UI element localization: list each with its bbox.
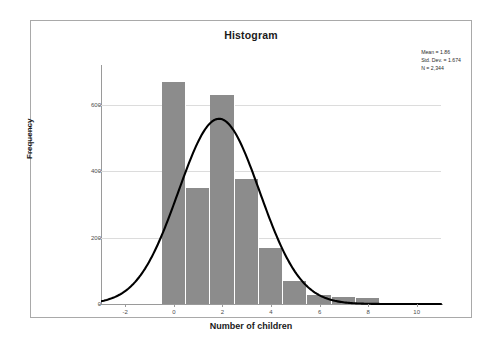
- x-axis-tick-mark: [368, 304, 369, 307]
- x-axis-tick-mark: [174, 304, 175, 307]
- x-axis-tick-mark: [417, 304, 418, 307]
- x-axis-tick-mark: [222, 304, 223, 307]
- x-axis-tick-label: 10: [413, 309, 420, 315]
- histogram-bar: [307, 295, 331, 304]
- histogram-bar: [186, 188, 210, 304]
- x-axis-tick-mark: [125, 304, 126, 307]
- histogram-bar: [235, 179, 259, 304]
- chart-frame: Histogram Mean = 1.86 Std. Dev. = 1.674 …: [30, 20, 472, 318]
- histogram-screenshot: Histogram Mean = 1.86 Std. Dev. = 1.674 …: [0, 0, 498, 340]
- x-axis-tick-label: 6: [318, 309, 321, 315]
- gridline: [101, 238, 441, 239]
- plot-area: [101, 65, 441, 304]
- y-axis-tick-mark: [98, 304, 101, 305]
- x-axis-line: [101, 304, 443, 305]
- y-axis-title: Frequency: [25, 119, 34, 159]
- histogram-bar: [162, 82, 186, 304]
- x-axis-tick-label: 2: [221, 309, 224, 315]
- x-axis-tick-label: 0: [172, 309, 175, 315]
- histogram-bar: [259, 248, 283, 304]
- histogram-bar: [332, 297, 356, 304]
- stat-mean: Mean = 1.86: [421, 48, 461, 56]
- x-axis-tick-mark: [271, 304, 272, 307]
- x-axis-tick-label: 8: [366, 309, 369, 315]
- histogram-bar: [283, 281, 307, 304]
- x-axis-tick-mark: [320, 304, 321, 307]
- gridline: [101, 171, 441, 172]
- y-axis-tick-group: 0200400600: [71, 21, 101, 340]
- histogram-bar: [210, 95, 234, 304]
- x-axis-tick-label: 4: [269, 309, 272, 315]
- x-axis-tick-label: -2: [123, 309, 128, 315]
- gridline: [101, 105, 441, 106]
- stat-std-dev: Std. Dev. = 1.674: [421, 56, 461, 64]
